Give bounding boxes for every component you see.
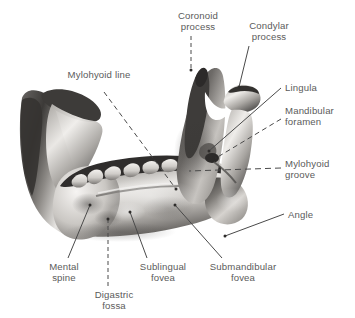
dot-mandibular-foramen [215,157,218,160]
label-mylohyoid-groove: Mylohyoid groove [285,158,349,181]
dot-angle [224,235,227,238]
dot-mylohyoid-line [175,188,178,191]
dot-coronoid-process [190,69,193,72]
body-highlight [102,178,198,214]
bone-photograph [20,68,261,242]
label-sublingual-fovea: Sublingual fovea [129,261,197,284]
condylar-neck [221,110,253,198]
dot-condylar-process [238,86,241,89]
dot-sublingual-fovea [129,211,132,214]
dot-lingula [208,150,211,153]
dot-digastric-fossa [107,218,110,221]
dot-submandibular-fovea [174,204,177,207]
label-mylohyoid-line: Mylohyoid line [56,69,142,80]
label-mental-spine: Mental spine [38,261,90,284]
label-mandibular-foramen: Mandibular foramen [285,105,353,128]
label-submandibular-fovea: Submandibular fovea [198,261,288,284]
dot-mental-spine [89,204,92,207]
label-lingula: Lingula [285,82,345,93]
label-angle: Angle [288,209,338,220]
lower-border-shadow [64,222,176,242]
leader-condylar-process [239,46,249,87]
angle-highlight [216,188,248,212]
label-digastric-fossa: Digastric fossa [83,289,145,312]
label-coronoid-process: Coronoid process [167,10,229,33]
label-condylar-process: Condylar process [238,20,300,43]
